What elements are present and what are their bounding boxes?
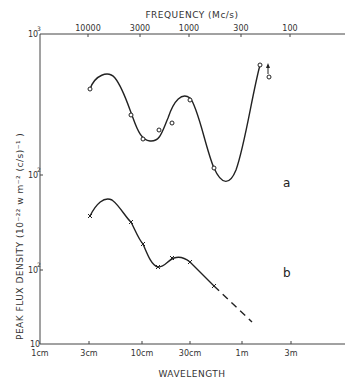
top-axis-title: FREQUENCY (Mc/s) <box>145 10 238 20</box>
arrow-up-icon <box>266 63 270 74</box>
top-tick-label: 300 <box>233 24 248 33</box>
top-tick-label: 100 <box>282 24 297 33</box>
curve-b <box>90 199 214 286</box>
top-tick-label: 3000 <box>130 24 150 33</box>
bottom-tick-label: 1cm <box>31 349 48 358</box>
x-axis-title: WAVELENGTH <box>158 369 225 379</box>
curve-label-a: a <box>283 176 290 190</box>
svg-text:2: 2 <box>37 166 41 173</box>
bottom-tick-label: 10cm <box>131 349 154 358</box>
bottom-tick-label: 1m <box>236 349 249 358</box>
chart: FREQUENCY (Mc/s) 10000 3000 1000 300 100… <box>0 0 355 387</box>
bottom-tick-label: 3cm <box>80 349 97 358</box>
svg-text:10: 10 <box>30 340 40 349</box>
curve-label-b: b <box>283 266 291 280</box>
curve-a <box>90 65 260 181</box>
curve-b-points <box>88 214 216 288</box>
top-tick-label: 1000 <box>179 24 199 33</box>
bottom-tick-label: 3m <box>285 349 298 358</box>
bottom-tick-label: 30cm <box>179 349 202 358</box>
svg-text:3: 3 <box>37 25 41 32</box>
top-tick-label: 10000 <box>75 24 100 33</box>
curve-b-extrapolation <box>214 286 252 322</box>
svg-text:2: 2 <box>37 261 41 268</box>
left-tick-labels: 103 102 102 10 <box>28 25 41 349</box>
y-axis-title: PEAK FLUX DENSITY (10⁻²² w m⁻² (c/s)⁻¹ ) <box>15 133 25 340</box>
